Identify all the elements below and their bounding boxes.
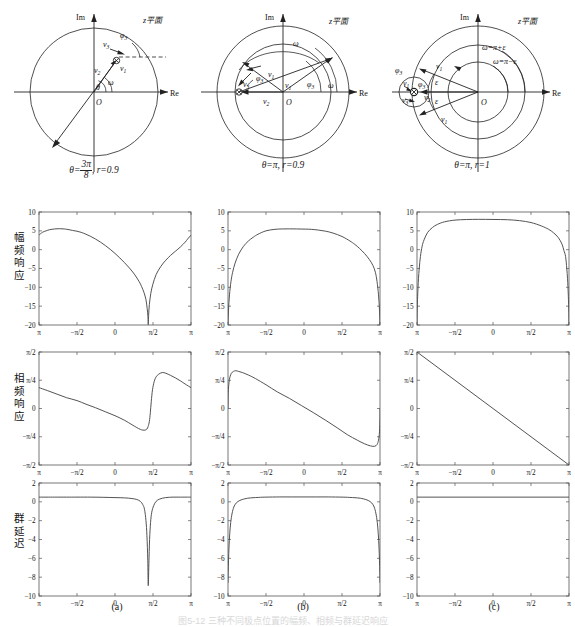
plot-c-magnitude: π−π/20π/2π−20−15−10−50510 <box>387 206 575 341</box>
plot-line-|H|dB <box>228 229 380 325</box>
x-tick-label: π <box>37 469 41 477</box>
zplane-diagram-b: Re Im O z平面 ω ω φ3 φ3 v1 v1 v3 v2 θ=π, r… <box>189 0 377 200</box>
label-v3-a: v3 <box>103 40 110 50</box>
y-tick-label: −10 <box>213 284 225 292</box>
y-tick-label: −π/4 <box>400 433 414 441</box>
x-tick-label: π <box>567 469 571 477</box>
plot-grid: π−π/20π/2π−20−15−10−50510π−π/20π/2π−π/2−… <box>0 198 566 608</box>
vector-v2-b <box>241 89 283 95</box>
y-tick-label: 0 <box>410 405 414 413</box>
label-phi3-c: φ3 <box>395 66 402 76</box>
y-tick-label: 0 <box>32 246 36 254</box>
x-tick-label: π/2 <box>526 600 536 608</box>
y-tick-label: 5 <box>221 227 225 235</box>
y-tick-label: 0 <box>221 498 225 506</box>
y-tick-label: π/2 <box>26 349 36 357</box>
label-v1-lower-c: v1 <box>441 115 448 125</box>
re-axis-arrow <box>542 89 550 95</box>
y-tick-label: 2 <box>221 480 225 488</box>
figure-caption: 图5-12 三种不同极点位置的幅频、相频与群延迟响应 <box>0 614 566 627</box>
label-v1-a: v1 <box>120 64 127 74</box>
x-tick-label: π <box>189 600 193 608</box>
x-tick-label: −π/2 <box>448 469 462 477</box>
y-tick-label: −5 <box>406 265 414 273</box>
x-tick-label: 0 <box>491 469 495 477</box>
label-omega-top-b: ω <box>293 39 299 48</box>
plot-a-magnitude: π−π/20π/2π−20−15−10−50510 <box>9 206 197 341</box>
plot-line-arg H <box>39 372 191 430</box>
x-tick-label: π/2 <box>526 469 536 477</box>
angle-arc-omega-inner-c <box>493 66 508 92</box>
y-tick-label: −10 <box>24 284 36 292</box>
plot-line-τ <box>228 497 380 583</box>
x-tick-label: π <box>37 329 41 337</box>
label-v2-b: v2 <box>263 97 270 107</box>
zplane-diagram-a: Re Im O z平面 φ3 v3 v1 v2 ω θ θ= 3π 8 , r=… <box>0 0 188 200</box>
plot-a-group-delay: π−π/20π/2π−10−8−6−4−202 <box>9 477 197 612</box>
zplane-diagram-row: Re Im O z平面 φ3 v3 v1 v2 ω θ θ= 3π 8 , r=… <box>0 0 566 200</box>
x-tick-label: π/2 <box>337 469 347 477</box>
y-tick-label: −4 <box>406 536 414 544</box>
x-tick-label: 0 <box>113 469 117 477</box>
x-tick-label: π <box>415 329 419 337</box>
label-origin-c: O <box>481 98 487 107</box>
x-tick-label: π/2 <box>148 329 158 337</box>
y-tick-label: −4 <box>28 536 36 544</box>
column-label-c: (c) <box>464 601 524 612</box>
plot-frame <box>228 352 380 465</box>
y-tick-label: −15 <box>402 303 414 311</box>
y-tick-label: π/2 <box>215 349 225 357</box>
y-tick-label: −20 <box>402 322 414 330</box>
label-phi3-right-b: φ3 <box>307 80 314 90</box>
y-tick-label: 0 <box>32 498 36 506</box>
y-tick-label: −20 <box>24 322 36 330</box>
x-tick-label: −π/2 <box>448 329 462 337</box>
plot-b-phase: π−π/20π/2π−π/2−π/40π/4π/2 <box>198 346 386 481</box>
x-tick-label: −π/2 <box>259 600 273 608</box>
y-tick-label: −6 <box>217 555 225 563</box>
y-tick-label: −2 <box>28 517 36 525</box>
y-tick-label: −15 <box>213 303 225 311</box>
plot-frame <box>417 483 569 596</box>
sweep-arrow-c <box>454 66 462 71</box>
y-tick-label: −π/4 <box>211 433 225 441</box>
label-v1-upper-c: v1 <box>436 62 443 72</box>
y-tick-label: −15 <box>24 303 36 311</box>
y-tick-label: 0 <box>221 405 225 413</box>
x-tick-label: π <box>378 600 382 608</box>
x-tick-label: 0 <box>302 469 306 477</box>
x-tick-label: 0 <box>302 329 306 337</box>
plot-frame <box>228 483 380 596</box>
x-tick-label: π <box>189 329 193 337</box>
label-omega-a: ω <box>108 78 114 87</box>
plot-line-|H|dB <box>39 229 191 325</box>
y-tick-label: π/2 <box>404 349 414 357</box>
label-zplane-b: z平面 <box>328 17 350 26</box>
x-tick-label: π <box>226 329 230 337</box>
y-tick-label: 0 <box>410 246 414 254</box>
label-omega-right-b: ω <box>328 81 334 90</box>
label-zplane-c: z平面 <box>517 17 539 26</box>
plot-frame <box>39 483 191 596</box>
im-axis-arrow <box>280 14 286 22</box>
y-tick-label: 10 <box>28 209 36 217</box>
x-tick-label: −π/2 <box>70 469 84 477</box>
y-tick-label: −π/2 <box>211 462 225 470</box>
label-v1-small-c: v1 <box>403 79 410 89</box>
label-epsilon-lower-c: ε <box>435 97 439 106</box>
label-omega-pi-plus-eps-c: ω=π+ε <box>482 43 506 52</box>
column-label-a: (a) <box>87 601 147 612</box>
label-theta-a: θ <box>96 83 100 92</box>
plot-frame <box>417 212 569 325</box>
zplane-caption-c: θ=π, r=1 <box>378 160 566 170</box>
y-tick-label: −10 <box>24 593 36 601</box>
plot-a-phase: π−π/20π/2π−π/2−π/40π/4π/2 <box>9 346 197 481</box>
label-im-axis-c: Im <box>460 13 470 22</box>
x-tick-label: 0 <box>491 329 495 337</box>
x-tick-label: −π/2 <box>259 469 273 477</box>
y-tick-label: −5 <box>217 265 225 273</box>
label-omega-pi-minus-eps-c: ω=π−ε <box>493 57 517 66</box>
y-tick-label: 10 <box>406 209 414 217</box>
x-tick-label: −π/2 <box>70 329 84 337</box>
